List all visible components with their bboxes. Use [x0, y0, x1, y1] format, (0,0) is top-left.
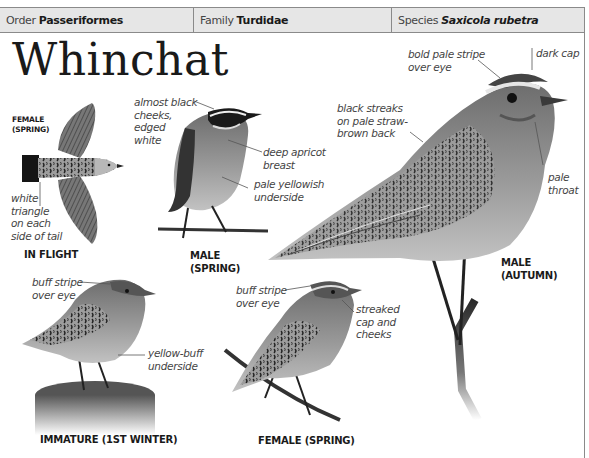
- in-flight-sublabel: FEMALE (SPRING): [12, 115, 49, 134]
- annotation-dark-cap: dark cap: [536, 47, 579, 60]
- annotation-female-buff-stripe: buff stripe over eye: [236, 284, 287, 309]
- annotation-black-streaks: black streaks on pale straw- brown back: [337, 102, 408, 140]
- annotation-black-cheeks: almost black cheeks, edged white: [134, 96, 197, 146]
- female-spring-caption: FEMALE (SPRING): [258, 435, 355, 448]
- annotation-yellow-buff-underside: yellow-buff underside: [148, 347, 203, 372]
- annotation-white-triangle: white triangle on each side of tail: [11, 192, 62, 242]
- annotation-apricot-breast: deep apricot breast: [263, 146, 326, 171]
- male-autumn-caption: MALE (AUTUMN): [501, 257, 557, 282]
- annotation-immature-buff-stripe: buff stripe over eye: [32, 276, 83, 301]
- annotation-yellowish-underside: pale yellowish underside: [254, 178, 324, 203]
- immature-caption: IMMATURE (1ST WINTER): [40, 434, 177, 447]
- annotation-pale-throat: pale throat: [548, 171, 578, 196]
- illustrations: [0, 0, 589, 458]
- male-spring-caption: MALE (SPRING): [190, 250, 240, 275]
- bird-immature-illustration: [22, 280, 156, 435]
- annotation-streaked-cap: streaked cap and cheeks: [356, 303, 400, 341]
- in-flight-caption: IN FLIGHT: [24, 249, 78, 262]
- annotation-bold-stripe: bold pale stripe over eye: [408, 48, 485, 73]
- species-page: Order Passeriformes Family Turdidae Spec…: [0, 0, 589, 458]
